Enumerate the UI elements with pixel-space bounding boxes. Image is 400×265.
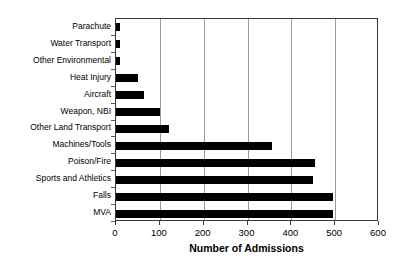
bar xyxy=(116,125,169,133)
category-label: Other Environmental xyxy=(1,56,111,65)
y-axis-tick xyxy=(111,52,115,53)
bar xyxy=(116,91,144,99)
x-axis-tick xyxy=(159,221,160,225)
bar xyxy=(116,176,313,184)
x-axis-tick-label: 100 xyxy=(139,227,179,238)
bar-row xyxy=(116,40,379,48)
category-label: Heat Injury xyxy=(1,73,111,82)
x-axis-tick xyxy=(247,221,248,225)
bar-row xyxy=(116,125,379,133)
bar-row xyxy=(116,193,379,201)
category-label: Aircraft xyxy=(1,90,111,99)
bar xyxy=(116,142,272,150)
y-axis-tick xyxy=(111,187,115,188)
x-axis-tick-label: 400 xyxy=(270,227,310,238)
bar xyxy=(116,108,160,116)
category-label: Machines/Tools xyxy=(1,140,111,149)
category-label: Weapon, NBI xyxy=(1,107,111,116)
x-axis-tick-label: 200 xyxy=(183,227,223,238)
category-label: Falls xyxy=(1,191,111,200)
x-axis-tick-label: 0 xyxy=(95,227,135,238)
x-axis-tick-label: 500 xyxy=(314,227,354,238)
bar xyxy=(116,74,138,82)
category-label: Poison/Fire xyxy=(1,157,111,166)
y-axis-tick xyxy=(111,120,115,121)
y-axis-tick xyxy=(111,170,115,171)
bar-row xyxy=(116,23,379,31)
x-axis-tick xyxy=(115,221,116,225)
y-axis-tick xyxy=(111,136,115,137)
plot-area xyxy=(115,18,378,221)
bar xyxy=(116,210,333,218)
y-axis-tick xyxy=(111,86,115,87)
x-axis-tick xyxy=(334,221,335,225)
category-label: Parachute xyxy=(1,22,111,31)
bar xyxy=(116,193,333,201)
bar-row xyxy=(116,142,379,150)
bar xyxy=(116,23,120,31)
bar xyxy=(116,40,120,48)
category-label: Sports and Athletics xyxy=(1,174,111,183)
category-label: MVA xyxy=(1,208,111,217)
bar-row xyxy=(116,57,379,65)
bar-row xyxy=(116,159,379,167)
category-axis-labels: ParachuteWater TransportOther Environmen… xyxy=(0,18,111,221)
y-axis-tick xyxy=(111,103,115,104)
x-axis-tick xyxy=(290,221,291,225)
category-label: Other Land Transport xyxy=(1,123,111,132)
bar xyxy=(116,159,315,167)
bar-row xyxy=(116,91,379,99)
bar-series xyxy=(116,19,377,220)
x-axis-tick-label: 300 xyxy=(227,227,267,238)
y-axis-tick xyxy=(111,153,115,154)
x-axis-tick-label: 600 xyxy=(358,227,398,238)
x-axis-title: Number of Admissions xyxy=(115,242,378,254)
bar xyxy=(116,57,120,65)
y-axis-tick xyxy=(111,69,115,70)
x-axis-tick xyxy=(203,221,204,225)
bar-row xyxy=(116,74,379,82)
bar-row xyxy=(116,176,379,184)
bar-row xyxy=(116,210,379,218)
y-axis-tick xyxy=(111,35,115,36)
horizontal-bar-chart: ParachuteWater TransportOther Environmen… xyxy=(0,0,400,265)
x-axis-tick xyxy=(378,221,379,225)
y-axis-tick xyxy=(111,204,115,205)
bar-row xyxy=(116,108,379,116)
category-label: Water Transport xyxy=(1,39,111,48)
